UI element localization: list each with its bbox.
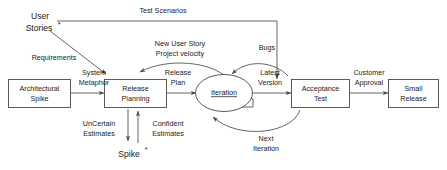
node-label-line1: Acceptance [302, 84, 340, 93]
node-label-line1: User [31, 11, 49, 21]
svg-text:Release: Release [165, 68, 191, 77]
node-label-line1: Small [405, 84, 423, 93]
svg-text:Plan: Plan [171, 78, 185, 87]
edge-label-system-metaphor: System Metaphor [79, 68, 110, 87]
node-architectural-spike[interactable]: Architectural Spike [9, 80, 71, 108]
edge-label-uncertain-estimates: UnCertain Estimates [83, 119, 115, 138]
edge-label-bugs: Bugs [259, 43, 276, 52]
svg-text:Estimates: Estimates [83, 129, 115, 138]
node-iteration[interactable]: Iteration [196, 75, 253, 112]
svg-text:UnCertain: UnCertain [83, 119, 115, 128]
node-label-line2: Spike [31, 94, 49, 103]
edge-label-latest-version: Latest Version [258, 68, 282, 87]
node-user-stories[interactable]: User Stories * [26, 11, 61, 33]
svg-text:Requirements: Requirements [32, 53, 77, 62]
svg-text:New User Story: New User Story [155, 39, 206, 48]
node-label-line1: Release [122, 84, 148, 93]
edge-label-test-scenarios: Test Scenarios [139, 6, 187, 15]
edge-label-next-iteration: Next Iteration [253, 134, 279, 153]
node-label-line2: Planning [122, 94, 150, 103]
node-marker-asterisk: * [58, 21, 61, 28]
node-label-line1: Architectural [20, 84, 60, 93]
diagram-svg: Architectural Spike Release Planning Ite… [0, 0, 447, 170]
svg-text:Latest: Latest [260, 68, 280, 77]
node-label-line2: Test [314, 94, 327, 103]
edge-label-confident-estimates: Confident Estimates [152, 119, 184, 138]
node-spike[interactable]: Spike * [118, 146, 147, 159]
node-label-line2: Release [400, 94, 426, 103]
svg-text:Confident: Confident [153, 119, 184, 128]
node-label-line2: Stories [26, 23, 53, 33]
svg-text:Metaphor: Metaphor [79, 78, 110, 87]
svg-text:Test Scenarios: Test Scenarios [139, 6, 187, 15]
svg-text:Next: Next [259, 134, 274, 143]
svg-text:Approval: Approval [355, 78, 384, 87]
node-small-release[interactable]: Small Release [389, 80, 439, 108]
svg-text:Estimates: Estimates [152, 129, 184, 138]
svg-text:Project velocity: Project velocity [156, 49, 205, 58]
node-label-line1: Spike [118, 149, 140, 159]
edge-label-requirements: Requirements [32, 53, 77, 62]
svg-text:Iteration: Iteration [253, 144, 279, 153]
node-release-planning[interactable]: Release Planning [105, 80, 167, 108]
svg-text:System: System [82, 68, 106, 77]
node-marker-asterisk: * [145, 146, 148, 153]
svg-text:Version: Version [258, 78, 282, 87]
node-acceptance-test[interactable]: Acceptance Test [292, 80, 350, 108]
edge-label-customer-approval: Customer Approval [353, 68, 385, 87]
svg-text:Customer: Customer [353, 68, 385, 77]
edge-next-iteration [213, 110, 300, 131]
node-label-line1: Iteration [211, 88, 237, 97]
edge-label-new-user-story: New User Story Project velocity [155, 39, 206, 58]
diagram-canvas: Architectural Spike Release Planning Ite… [0, 0, 447, 170]
svg-text:Bugs: Bugs [259, 43, 276, 52]
edge-label-release-plan: Release Plan [165, 68, 191, 87]
